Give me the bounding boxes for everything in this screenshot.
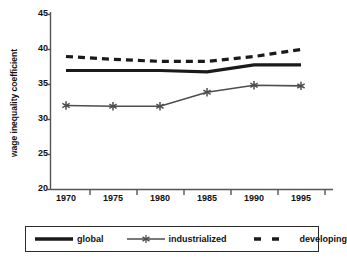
legend-swatch-global-solid-line bbox=[34, 232, 74, 246]
legend-label-global: global bbox=[77, 234, 104, 244]
legend-label-developing: developing bbox=[300, 234, 347, 244]
series-line-developing bbox=[66, 50, 301, 62]
legend-item-industrialized: industrialized bbox=[126, 227, 227, 251]
wage-inequality-line-chart: wage inequality coefficient 20 25 30 35 … bbox=[0, 0, 347, 260]
plot-area: wage inequality coefficient 20 25 30 35 … bbox=[0, 0, 347, 212]
legend-swatch-industrialized-marker-line bbox=[126, 232, 166, 246]
legend-label-industrialized: industrialized bbox=[169, 234, 227, 244]
series-line-industrialized bbox=[66, 85, 301, 106]
legend-item-global: global bbox=[34, 227, 104, 251]
x-tick-marks bbox=[90, 190, 325, 196]
chart-legend: global industrialized developing bbox=[25, 226, 319, 252]
series-line-global bbox=[66, 65, 301, 72]
legend-swatch-developing-dashed-line bbox=[251, 232, 291, 246]
legend-item-developing: developing bbox=[251, 227, 347, 251]
chart-canvas bbox=[0, 0, 347, 212]
